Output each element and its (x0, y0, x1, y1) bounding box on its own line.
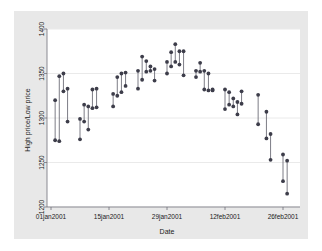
high-price-marker (269, 132, 273, 136)
low-price-marker (66, 120, 70, 124)
low-price-marker (211, 89, 215, 93)
low-price-marker (207, 89, 211, 93)
low-price-marker (86, 128, 90, 132)
high-price-marker (53, 98, 57, 102)
low-price-marker (140, 78, 144, 82)
x-tick-label: 01jan2001 (36, 213, 67, 221)
range-plot: 12001250130013501400 01jan200115jan20012… (0, 0, 322, 251)
high-price-marker (66, 87, 70, 91)
y-tick-label: 1300 (38, 110, 45, 125)
x-tick-label: 29jan2001 (152, 213, 183, 221)
high-price-marker (173, 42, 177, 46)
high-price-marker (153, 67, 157, 71)
high-price-marker (144, 59, 148, 63)
high-price-marker (115, 75, 119, 79)
low-price-marker (53, 138, 57, 142)
high-price-marker (202, 69, 206, 73)
low-price-marker (227, 103, 231, 107)
low-price-marker (223, 107, 227, 111)
high-price-marker (149, 64, 153, 68)
high-price-marker (281, 153, 285, 157)
low-price-marker (202, 88, 206, 92)
high-price-marker (62, 72, 66, 76)
y-tick-label: 1250 (38, 155, 45, 170)
high-price-marker (140, 55, 144, 59)
high-price-marker (182, 49, 186, 53)
low-price-marker (111, 105, 115, 109)
low-price-marker (91, 106, 95, 110)
chart-figure: 12001250130013501400 01jan200115jan20012… (0, 0, 322, 251)
high-price-marker (120, 72, 124, 76)
high-price-marker (178, 49, 182, 53)
high-price-marker (165, 60, 169, 64)
high-price-marker (198, 61, 202, 65)
low-price-marker (198, 70, 202, 74)
high-price-marker (265, 110, 269, 114)
low-price-marker (173, 60, 177, 64)
high-price-marker (223, 88, 227, 92)
y-tick-labels: 12001250130013501400 (38, 21, 45, 214)
high-price-marker (231, 97, 235, 101)
high-price-marker (82, 103, 86, 107)
high-price-marker (194, 69, 198, 73)
high-price-marker (57, 74, 61, 78)
low-price-marker (149, 69, 153, 73)
low-price-marker (153, 79, 157, 83)
range-bar (211, 88, 215, 93)
y-tick-label: 1200 (38, 199, 45, 214)
low-price-marker (136, 87, 140, 91)
low-price-marker (144, 70, 148, 74)
low-price-marker (169, 64, 173, 68)
high-price-marker (256, 93, 260, 97)
high-price-marker (95, 87, 99, 91)
low-price-marker (120, 90, 124, 94)
low-price-marker (231, 105, 235, 109)
y-tick-label: 1400 (38, 21, 45, 36)
high-price-marker (86, 105, 90, 109)
low-price-marker (124, 84, 128, 88)
high-price-marker (207, 72, 211, 76)
y-axis-title: High price/Low price (24, 88, 32, 152)
x-tick-label: 26feb2001 (268, 213, 299, 220)
low-price-marker (178, 63, 182, 67)
y-tick-label: 1350 (38, 66, 45, 81)
low-price-marker (78, 137, 82, 141)
low-price-marker (182, 73, 186, 77)
low-price-marker (165, 72, 169, 76)
x-tick-labels: 01jan200115jan200129jan200112feb200126fe… (36, 213, 299, 221)
x-axis-title: Date (160, 228, 175, 235)
low-price-marker (62, 89, 66, 93)
low-price-marker (281, 179, 285, 183)
x-tick-label: 15jan2001 (94, 213, 125, 221)
low-price-marker (82, 120, 86, 124)
low-price-marker (269, 158, 273, 162)
high-price-marker (111, 92, 115, 96)
low-price-marker (285, 192, 289, 196)
high-price-marker (240, 89, 244, 93)
x-tick-label: 12feb2001 (210, 213, 241, 220)
high-price-marker (169, 50, 173, 54)
low-price-marker (240, 102, 244, 106)
high-price-marker (124, 71, 128, 75)
low-price-marker (194, 75, 198, 79)
high-price-marker (285, 159, 289, 163)
high-price-marker (227, 90, 231, 94)
low-price-marker (256, 122, 260, 126)
low-price-marker (265, 137, 269, 141)
high-price-marker (136, 69, 140, 73)
low-price-marker (57, 139, 61, 143)
high-price-marker (78, 117, 82, 121)
high-price-marker (91, 88, 95, 92)
low-price-marker (236, 113, 240, 117)
high-price-marker (236, 100, 240, 104)
low-price-marker (95, 105, 99, 109)
low-price-marker (115, 94, 119, 98)
